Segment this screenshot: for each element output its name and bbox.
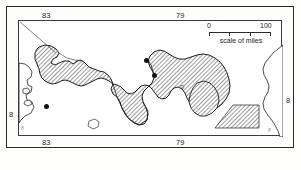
colombia-outline bbox=[263, 45, 283, 137]
scale-tick-mid-2 bbox=[250, 32, 251, 36]
scale-start-label: 0 bbox=[207, 22, 211, 29]
corner-mark-lower-right: 8 bbox=[268, 127, 271, 133]
scale-bar-line bbox=[209, 32, 271, 33]
city-dot-west-coast bbox=[44, 104, 49, 109]
scale-tick-mid-1 bbox=[229, 32, 230, 36]
scale-tick-start bbox=[209, 32, 210, 36]
figure-page: 83 79 83 79 8 8 bbox=[0, 0, 301, 170]
scale-tick-end bbox=[270, 32, 271, 36]
scale-caption: scale of miles bbox=[203, 37, 279, 44]
inland-annotation-mark: D bbox=[180, 84, 184, 90]
corner-mark-lower-left: 8 bbox=[21, 125, 24, 131]
inland-island bbox=[88, 119, 99, 129]
scale-bar: 0 100 scale of miles bbox=[203, 21, 279, 47]
hatched-block-southeast bbox=[215, 105, 259, 128]
city-dot-panama bbox=[152, 73, 157, 78]
caribbean-coast-accent bbox=[59, 53, 83, 61]
scale-end-label: 100 bbox=[260, 22, 272, 29]
city-dot-colon bbox=[144, 58, 149, 63]
